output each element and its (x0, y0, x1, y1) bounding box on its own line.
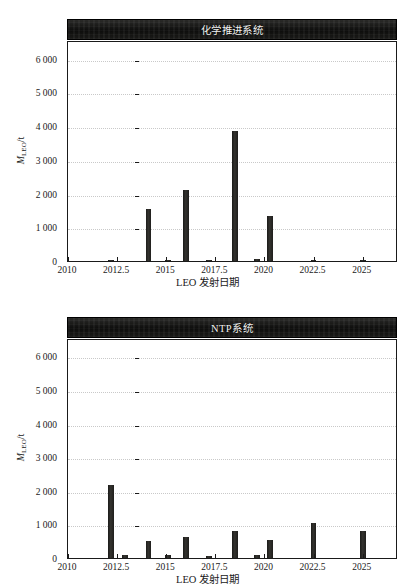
bar (146, 541, 152, 558)
y-tick-mark (135, 526, 139, 527)
y-tick-mark (135, 128, 139, 129)
gridline (68, 459, 396, 460)
gridline (68, 426, 396, 427)
gridline (68, 358, 396, 359)
plot-area (67, 339, 397, 559)
x-tick-mark (68, 257, 69, 261)
y-tick-label: 1 000 (36, 223, 63, 233)
chart-panel-ntp: NTP系统01 0002 0003 0004 0005 0006 0002010… (0, 290, 415, 575)
x-tick-mark (117, 257, 118, 261)
y-tick-mark (135, 459, 139, 460)
chart-canvas-top: 化学推进系统01 0002 0003 0004 0005 0006 000201… (0, 0, 415, 290)
x-tick-mark (314, 257, 315, 261)
bar (232, 131, 238, 261)
y-axis-label-unit: /t (15, 136, 26, 142)
gridline (68, 392, 396, 393)
x-tick-mark (117, 554, 118, 558)
x-tick-mark (363, 554, 364, 558)
chart-title: NTP系统 (211, 320, 253, 335)
gridline (68, 526, 396, 527)
y-tick-mark (135, 229, 139, 230)
chart-title: 化学推进系统 (201, 22, 263, 37)
y-tick-mark (135, 162, 139, 163)
chart-title-band: NTP系统 (67, 317, 397, 338)
x-tick-mark (363, 257, 364, 261)
bar (108, 260, 114, 261)
gridline (68, 493, 396, 494)
y-tick-label: 5 000 (36, 386, 63, 396)
y-tick-mark (135, 392, 139, 393)
bar (108, 485, 114, 558)
bar (146, 209, 152, 261)
x-tick-mark (68, 554, 69, 558)
bar (267, 540, 273, 558)
y-axis: 01 0002 0003 0004 0005 0006 000 (0, 41, 63, 262)
bar (254, 259, 260, 261)
y-tick-label: 2 000 (36, 190, 63, 200)
y-tick-mark (135, 426, 139, 427)
y-tick-mark (135, 493, 139, 494)
gridline (68, 94, 396, 95)
y-tick-mark (135, 358, 139, 359)
bar (254, 555, 260, 558)
y-tick-label: 4 000 (36, 122, 63, 132)
x-tick-mark (314, 554, 315, 558)
y-axis-label: MLEO/t (15, 408, 26, 488)
y-tick-label: 5 000 (36, 88, 63, 98)
x-tick-mark (264, 257, 265, 261)
chart-title-band: 化学推进系统 (67, 19, 397, 40)
y-tick-mark (135, 94, 139, 95)
y-tick-label: 1 000 (36, 520, 63, 530)
x-tick-mark (166, 257, 167, 261)
y-tick-mark (135, 61, 139, 62)
y-tick-mark (135, 196, 139, 197)
y-axis-label-symbol: M (15, 453, 26, 461)
bar (183, 537, 189, 558)
x-axis-label: LEO 发射日期 (0, 274, 415, 289)
x-tick-mark (215, 554, 216, 558)
plot-area (67, 41, 397, 262)
x-tick-mark (215, 257, 216, 261)
bar (311, 523, 317, 558)
y-axis-label: MLEO/t (15, 110, 26, 190)
y-tick-label: 6 000 (36, 352, 63, 362)
bar (206, 556, 212, 558)
y-tick-label: 3 000 (36, 453, 63, 463)
gridline (68, 61, 396, 62)
gridline (68, 128, 396, 129)
y-tick-label: 6 000 (36, 55, 63, 65)
bar (122, 555, 128, 558)
bar (232, 531, 238, 558)
y-axis-label-subscript: LEO (20, 439, 28, 453)
chart-canvas-bottom: NTP系统01 0002 0003 0004 0005 0006 0002010… (0, 290, 415, 575)
y-axis-label-subscript: LEO (20, 142, 28, 156)
y-axis: 01 0002 0003 0004 0005 0006 000 (0, 339, 63, 559)
y-axis-label-unit: /t (15, 434, 26, 440)
bar (267, 216, 273, 261)
y-axis-label-symbol: M (15, 155, 26, 163)
bar (183, 190, 189, 261)
x-axis-label: LEO 发射日期 (0, 571, 415, 586)
x-tick-mark (264, 554, 265, 558)
y-tick-label: 3 000 (36, 156, 63, 166)
y-tick-label: 4 000 (36, 420, 63, 430)
chart-panel-chemical-propulsion: 化学推进系统01 0002 0003 0004 0005 0006 000201… (0, 0, 415, 290)
y-tick-label: 2 000 (36, 487, 63, 497)
bar (206, 260, 212, 261)
x-tick-mark (166, 554, 167, 558)
